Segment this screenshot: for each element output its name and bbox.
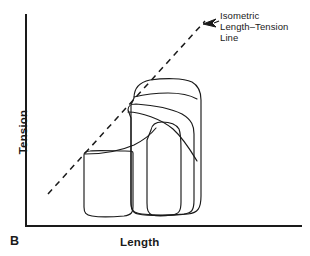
work-loop-outer <box>131 79 201 216</box>
shortening-trajectory-upper <box>134 93 197 99</box>
x-axis-label: Length <box>120 236 160 248</box>
panel-label: B <box>10 234 19 248</box>
work-loop-inner <box>147 122 181 216</box>
axis-lines <box>26 15 301 226</box>
isometric-line-annotation: Isometric Length–Tension Line <box>220 10 288 43</box>
shortening-trajectory-middle <box>128 112 197 161</box>
annotation-line-2: Length–Tension <box>220 21 288 32</box>
work-loop-largest <box>84 151 133 217</box>
annotation-arrow-icon <box>203 19 219 27</box>
annotation-line-3: Line <box>220 32 288 43</box>
figure-panel-b: Isometric Length–Tension Line Tension Le… <box>0 0 310 256</box>
y-axis-label: Tension <box>17 92 29 172</box>
annotation-line-1: Isometric <box>220 10 288 21</box>
